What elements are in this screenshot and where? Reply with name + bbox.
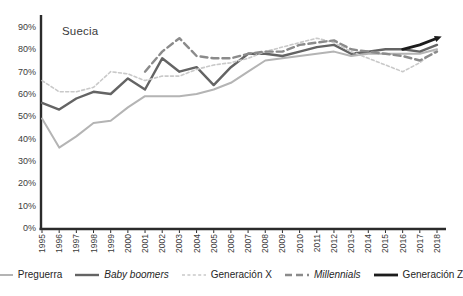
x-tick-label: 2011 [312,234,322,253]
x-tick-label: 2002 [157,234,167,253]
x-tick-label: 2008 [260,234,270,253]
x-tick-label: 2018 [432,234,442,253]
y-tick-label: 30% [18,156,36,166]
legend-swatch-millennials [285,272,309,278]
y-tick-label: 20% [18,178,36,188]
series-line-preguerra [42,49,437,147]
x-tick-label: 2009 [277,234,287,253]
x-tick-label: 1999 [106,234,116,253]
legend-swatch-baby-boomers [75,272,99,278]
x-tick-label: 2017 [415,234,425,253]
x-tick-label: 2012 [329,234,339,253]
y-tick-label: 10% [18,201,36,211]
y-tick-label: 70% [18,67,36,77]
x-tick-label: 2010 [295,234,305,253]
legend-item-baby-boomers: Baby boomers [75,269,168,280]
legend-swatch-preguerra [0,272,13,278]
x-tick-label: 1997 [71,234,81,253]
legend-item-generacion-x: Generación X [182,269,272,280]
x-tick-label: 1998 [89,234,99,253]
x-tick-label: 2013 [346,234,356,253]
x-tick-label: 2014 [363,234,373,253]
x-tick-label: 2001 [140,234,150,253]
y-tick-label: 60% [18,89,36,99]
x-tick-label: 2007 [243,234,253,253]
x-tick-label: 2005 [209,234,219,253]
legend-item-millennials: Millennials [285,269,361,280]
x-tick-label: 1995 [37,234,47,253]
y-tick-label: 40% [18,134,36,144]
legend-swatch-generacion-z [374,272,398,278]
x-tick-label: 2015 [380,234,390,253]
x-tick-label: 1996 [54,234,64,253]
y-tick-label: 90% [18,22,36,32]
legend-label: Generación X [211,269,272,280]
x-tick-label: 2000 [123,234,133,253]
legend-label: Baby boomers [104,269,168,280]
y-tick-label: 50% [18,111,36,121]
x-tick-label: 2016 [398,234,408,253]
chart-legend: Preguerra Baby boomers Generación X Mill… [0,269,452,280]
chart-title: Suecia [62,25,98,37]
legend-swatch-generacion-x [182,272,206,278]
legend-label: Generación Z [403,269,463,280]
legend-label: Millennials [314,269,361,280]
y-tick-label: 0% [23,223,36,233]
x-tick-label: 2003 [174,234,184,253]
y-tick-label: 80% [18,44,36,54]
legend-label: Preguerra [18,269,62,280]
legend-item-preguerra: Preguerra [0,269,62,280]
legend-item-generacion-z: Generación Z [374,269,463,280]
x-tick-label: 2004 [192,234,202,253]
x-tick-label: 2006 [226,234,236,253]
series-line-generacion-x [42,38,437,92]
